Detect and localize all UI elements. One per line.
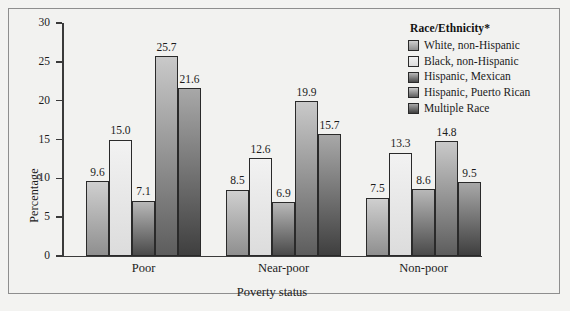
legend-item: White, non-Hispanic: [408, 39, 548, 52]
bar: [389, 153, 412, 256]
bar: [458, 182, 481, 256]
bar-value-label: 19.9: [285, 87, 329, 99]
y-tick-mark: [56, 255, 62, 257]
y-tick-label: 20: [8, 95, 50, 107]
y-axis-title: Percentage: [27, 116, 42, 276]
legend-item: Hispanic, Mexican: [408, 70, 548, 83]
legend-swatch-icon: [408, 87, 419, 98]
bar-group: 9.615.07.125.721.6Poor: [86, 23, 201, 256]
bar-group: 8.512.66.919.915.7Near-poor: [226, 23, 341, 256]
chart-figure: 051015202530 Percentage 9.615.07.125.721…: [0, 0, 570, 311]
bar: [318, 134, 341, 256]
legend-item-label: Hispanic, Puerto Rican: [424, 86, 530, 99]
bar: [178, 88, 201, 256]
bar: [412, 189, 435, 256]
y-tick-mark: [56, 22, 62, 24]
bar: [86, 181, 109, 256]
bar: [132, 201, 155, 256]
legend: Race/Ethnicity* White, non-HispanicBlack…: [408, 22, 548, 118]
legend-swatch-icon: [408, 103, 419, 114]
bar-value-label: 15.0: [99, 125, 143, 137]
legend-swatch-icon: [408, 40, 419, 51]
legend-swatch-icon: [408, 72, 419, 83]
legend-entries: White, non-HispanicBlack, non-HispanicHi…: [408, 39, 548, 115]
bar: [155, 56, 178, 256]
bar: [366, 198, 389, 256]
x-tick-label: Non-poor: [354, 261, 494, 276]
legend-title: Race/Ethnicity*: [410, 22, 548, 34]
bar-value-label: 15.7: [308, 120, 352, 132]
bar: [226, 190, 249, 256]
bar-value-label: 13.3: [379, 138, 423, 150]
bar-value-label: 12.6: [239, 144, 283, 156]
bar: [272, 202, 295, 256]
y-tick-label: 25: [8, 56, 50, 68]
y-tick-mark: [56, 216, 62, 218]
legend-item-label: White, non-Hispanic: [424, 39, 520, 52]
bar-value-label: 25.7: [145, 42, 189, 54]
x-axis-title: Poverty status: [62, 285, 482, 300]
y-tick-mark: [56, 61, 62, 63]
x-tick-label: Poor: [74, 261, 214, 276]
y-tick-mark: [56, 100, 62, 102]
y-tick-mark: [56, 139, 62, 141]
bar-value-label: 14.8: [425, 127, 469, 139]
y-tick-label: 30: [8, 17, 50, 29]
bar-value-label: 21.6: [168, 74, 212, 86]
legend-item: Black, non-Hispanic: [408, 55, 548, 68]
bar: [249, 158, 272, 256]
bar-value-label: 9.5: [448, 168, 492, 180]
legend-item: Hispanic, Puerto Rican: [408, 86, 548, 99]
bar: [435, 141, 458, 256]
legend-item-label: Black, non-Hispanic: [424, 55, 519, 68]
legend-item-label: Hispanic, Mexican: [424, 70, 511, 83]
legend-swatch-icon: [408, 56, 419, 67]
legend-item: Multiple Race: [408, 102, 548, 115]
x-tick-label: Near-poor: [214, 261, 354, 276]
legend-item-label: Multiple Race: [424, 102, 489, 115]
y-tick-mark: [56, 178, 62, 180]
